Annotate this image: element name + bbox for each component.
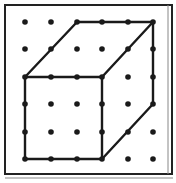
- grid-dot: [150, 19, 156, 25]
- grid-dot: [48, 129, 54, 135]
- grid-dot: [99, 156, 105, 162]
- grid-dot: [125, 101, 131, 107]
- grid-dot: [22, 46, 28, 52]
- grid-dot: [74, 129, 80, 135]
- grid-dot: [22, 101, 28, 107]
- outer-frame: [5, 5, 173, 178]
- grid-dot: [22, 129, 28, 135]
- grid-dot: [48, 74, 54, 80]
- grid-dot: [125, 74, 131, 80]
- grid-dot: [74, 101, 80, 107]
- grid-dot: [150, 156, 156, 162]
- grid-dot: [99, 129, 105, 135]
- grid-dot: [150, 101, 156, 107]
- grid-dot: [150, 129, 156, 135]
- grid-dot: [74, 19, 80, 25]
- grid-dot: [125, 19, 131, 25]
- grid-dot: [125, 156, 131, 162]
- grid-dot: [22, 156, 28, 162]
- grid-dot: [22, 19, 28, 25]
- cube-front-face: [25, 77, 102, 159]
- grid-dot: [99, 74, 105, 80]
- grid-dot: [74, 46, 80, 52]
- grid-dot: [74, 156, 80, 162]
- grid-dot: [48, 46, 54, 52]
- grid-dot: [48, 101, 54, 107]
- grid-dot: [125, 46, 131, 52]
- grid-dot: [74, 74, 80, 80]
- grid-dot: [99, 19, 105, 25]
- dot-grid-cube-diagram: [0, 0, 176, 183]
- frame-border: [5, 5, 172, 174]
- grid-dot: [150, 74, 156, 80]
- grid-dot: [150, 46, 156, 52]
- grid-dot: [99, 101, 105, 107]
- grid-dot: [48, 19, 54, 25]
- grid-dot: [22, 74, 28, 80]
- grid-dot: [125, 129, 131, 135]
- cube-edges: [25, 22, 153, 159]
- grid-dot: [99, 46, 105, 52]
- grid-dot: [48, 156, 54, 162]
